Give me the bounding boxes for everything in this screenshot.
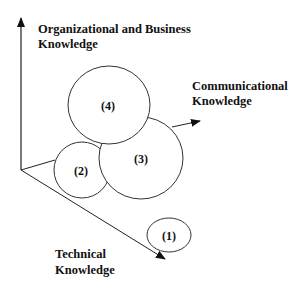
- technical-axis-label-line2: Knowledge: [55, 263, 115, 277]
- circle-label-2: (2): [74, 164, 88, 178]
- communicational-axis-label-line2: Knowledge: [192, 94, 252, 108]
- communicational-axis-line-left: [21, 160, 55, 170]
- knowledge-diagram: (4) (3) (2) (1) Organizational and Busin…: [0, 0, 300, 290]
- technical-axis-label-line1: Technical: [55, 247, 106, 261]
- circle-label-1: (1): [162, 229, 176, 243]
- circle-label-4: (4): [101, 99, 115, 113]
- communicational-axis-label-line1: Communicational: [192, 79, 288, 93]
- communicational-axis-arrow: [172, 121, 200, 127]
- vertical-axis-label-line1: Organizational and Business: [38, 22, 191, 36]
- vertical-axis-label-line2: Knowledge: [38, 37, 98, 51]
- circle-label-3: (3): [134, 152, 148, 166]
